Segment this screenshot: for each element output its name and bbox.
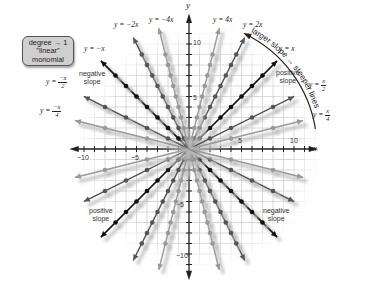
x-axis-label: x xyxy=(313,143,317,153)
x-tick-neg5: −5 xyxy=(131,154,139,161)
note-negative-slope-top: negative slope xyxy=(79,70,105,86)
x-arrow-left-icon xyxy=(69,146,78,152)
label-y-neg-x: y = −x xyxy=(84,44,105,53)
degree-callout: degree → 1 "linear" monomial xyxy=(22,36,74,66)
x-tick-5: 5 xyxy=(238,137,242,144)
note-positive-slope-bottom: positive slope xyxy=(89,207,113,223)
label-y-neg-x-over-2: y = −x2 xyxy=(46,75,67,89)
y-tick-10: 10 xyxy=(193,39,201,46)
label-y-x: y = x xyxy=(279,44,294,53)
y-tick-5: 5 xyxy=(193,94,197,101)
note-positive-slope-top: positive slope xyxy=(276,69,300,85)
x-tick-10: 10 xyxy=(290,137,298,144)
label-y-x-over-4: y = x4 xyxy=(313,108,330,122)
label-y-neg-4x: y = −4x xyxy=(149,15,173,24)
y-axis-label: y xyxy=(186,0,190,10)
y-tick-neg10: −10 xyxy=(176,252,188,259)
y-arrow-up-icon xyxy=(186,14,192,23)
note-negative-slope-bottom: negative slope xyxy=(263,207,289,223)
label-y-neg-x-over-4: y = −x4 xyxy=(40,104,61,118)
linear-monomial-diagram: larger slope → steeper lines degree → 1 … xyxy=(0,0,370,287)
label-y-4x: y = 4x xyxy=(213,15,232,24)
arc-label: larger slope → steeper lines xyxy=(250,26,322,109)
y-arrow-down-icon xyxy=(186,271,192,280)
label-y-2x: y = 2x xyxy=(243,20,262,29)
label-y-neg-2x: y = −2x xyxy=(114,20,138,29)
callout-line-3: monomial xyxy=(23,56,73,64)
y-tick-neg5: −5 xyxy=(176,201,184,208)
label-y-x-over-2: y = x2 xyxy=(309,78,326,92)
x-tick-neg10: −10 xyxy=(77,154,89,161)
